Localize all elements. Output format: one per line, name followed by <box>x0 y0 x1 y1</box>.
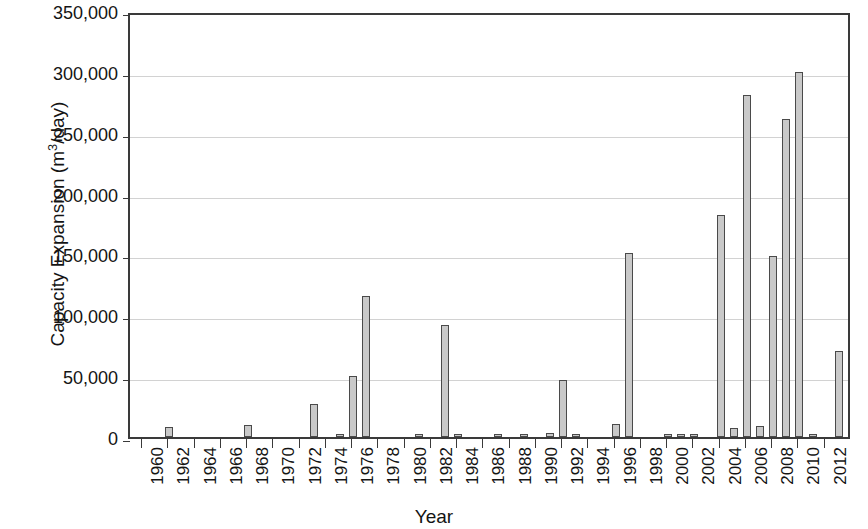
x-axis-tick-label: 2012 <box>831 447 851 507</box>
plot-area <box>128 13 850 439</box>
bar <box>559 380 567 437</box>
y-axis-tick-label: 200,000 <box>10 185 118 206</box>
bar-chart: Capacity Expansion (m3/day) 350,000300,0… <box>0 0 868 529</box>
bar <box>165 427 173 437</box>
y-axis-tick-mark <box>123 137 130 138</box>
bar <box>362 296 370 437</box>
bar <box>717 215 725 437</box>
y-axis-tick-mark <box>123 76 130 77</box>
x-axis-tick-labels: 1960196219641966196819701972197419761978… <box>128 449 850 509</box>
bar <box>336 434 344 437</box>
x-axis-tick-label: 2000 <box>673 447 693 507</box>
x-axis-tick-mark <box>141 439 142 448</box>
x-axis-tick-label: 2008 <box>778 447 798 507</box>
y-axis-tick-labels: 350,000300,000250,000200,000150,000100,0… <box>10 0 118 529</box>
bar <box>730 428 738 437</box>
x-axis-tick-label: 1974 <box>332 447 352 507</box>
x-axis-tick-label: 1996 <box>621 447 641 507</box>
y-axis-tick-label: 50,000 <box>10 368 118 389</box>
x-axis-tick-label: 1960 <box>148 447 168 507</box>
bar <box>769 256 777 437</box>
x-axis-title: Year <box>0 506 868 528</box>
bar <box>782 119 790 437</box>
bar <box>310 404 318 437</box>
bar <box>454 434 462 437</box>
y-axis-tick-label: 0 <box>10 429 118 450</box>
x-axis-tick-label: 1984 <box>463 447 483 507</box>
x-axis-tick-label: 1994 <box>594 447 614 507</box>
bar-series <box>130 15 848 437</box>
y-axis-tick-label: 350,000 <box>10 3 118 24</box>
bar <box>494 434 502 437</box>
bar <box>546 433 554 437</box>
y-axis-tick-label: 300,000 <box>10 63 118 84</box>
bar <box>612 424 620 437</box>
x-axis-tick-label: 2010 <box>804 447 824 507</box>
x-axis-tick-label: 2002 <box>699 447 719 507</box>
x-axis-tick-label: 1978 <box>384 447 404 507</box>
x-axis-tick-label: 1992 <box>568 447 588 507</box>
y-axis-tick-mark <box>123 380 130 381</box>
bar <box>795 72 803 437</box>
bar <box>743 95 751 437</box>
bar <box>756 426 764 437</box>
x-axis-tick-label: 2004 <box>726 447 746 507</box>
x-axis-tick-label: 1980 <box>411 447 431 507</box>
bar <box>625 253 633 437</box>
bar <box>572 434 580 437</box>
bar <box>677 434 685 437</box>
x-axis-tick-label: 1968 <box>253 447 273 507</box>
x-axis-tick-label: 1964 <box>201 447 221 507</box>
x-axis-tick-label: 1990 <box>542 447 562 507</box>
y-axis-tick-mark <box>123 258 130 259</box>
x-axis-tick-label: 1966 <box>227 447 247 507</box>
y-axis-tick-mark <box>123 319 130 320</box>
x-axis-tick-label: 1998 <box>647 447 667 507</box>
x-axis-tick-label: 1982 <box>437 447 457 507</box>
y-axis-tick-label: 250,000 <box>10 124 118 145</box>
bar <box>690 434 698 437</box>
bar <box>664 434 672 437</box>
x-axis-tick-label: 1986 <box>489 447 509 507</box>
x-axis-tick-label: 1976 <box>358 447 378 507</box>
bar <box>244 425 252 437</box>
x-axis-tick-label: 1970 <box>279 447 299 507</box>
bar <box>349 376 357 437</box>
bar <box>415 434 423 437</box>
bar <box>809 434 817 437</box>
bar <box>520 434 528 437</box>
x-axis-tick-label: 1962 <box>174 447 194 507</box>
y-axis-tick-mark <box>123 198 130 199</box>
x-axis-tick-label: 2006 <box>752 447 772 507</box>
y-axis-tick-label: 150,000 <box>10 246 118 267</box>
x-axis-tick-label: 1972 <box>306 447 326 507</box>
bar <box>441 325 449 437</box>
x-axis-tick-label: 1988 <box>516 447 536 507</box>
y-axis-tick-label: 100,000 <box>10 307 118 328</box>
y-axis-tick-mark <box>123 15 130 16</box>
bar <box>835 351 843 437</box>
